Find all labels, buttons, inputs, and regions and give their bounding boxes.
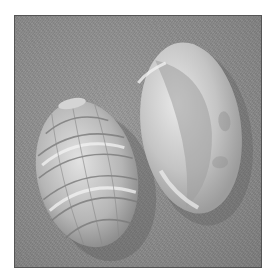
photo-frame bbox=[14, 15, 262, 268]
shells-illustration bbox=[15, 16, 262, 268]
